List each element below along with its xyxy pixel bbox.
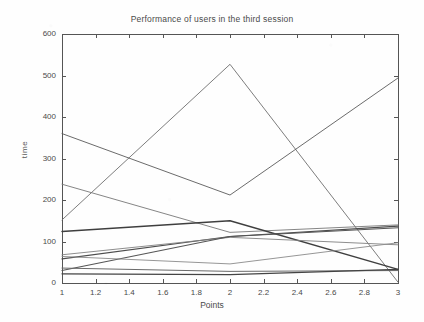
- series-line-user-3: [62, 184, 398, 232]
- y-tick-label: 400: [22, 112, 56, 121]
- y-tick-label: 500: [22, 71, 56, 80]
- series-line-user-10: [62, 269, 398, 274]
- x-tick-label: 3: [381, 288, 415, 297]
- x-tick-label: 1.8: [179, 288, 213, 297]
- x-tick-label: 1.6: [146, 288, 180, 297]
- x-tick-label: 2: [213, 288, 247, 297]
- x-tick-label: 2.4: [280, 288, 314, 297]
- x-tick-label: 2.2: [247, 288, 281, 297]
- axis-ticks: [62, 34, 399, 284]
- figure-canvas: Performance of users in the third sessio…: [0, 0, 424, 322]
- x-tick-label: 2.6: [314, 288, 348, 297]
- x-tick-label: 2.8: [347, 288, 381, 297]
- y-tick-label: 100: [22, 237, 56, 246]
- series-line-user-4: [62, 221, 398, 270]
- y-tick-label: 0: [22, 278, 56, 287]
- plot-area: [0, 0, 424, 322]
- axis-box: [63, 35, 399, 284]
- y-tick-label: 200: [22, 195, 56, 204]
- series-lines: [62, 64, 398, 282]
- series-line-user-2: [62, 78, 398, 195]
- y-tick-label: 300: [22, 154, 56, 163]
- x-tick-label: 1: [45, 288, 79, 297]
- y-tick-label: 600: [22, 29, 56, 38]
- x-tick-label: 1.2: [79, 288, 113, 297]
- x-tick-label: 1.4: [112, 288, 146, 297]
